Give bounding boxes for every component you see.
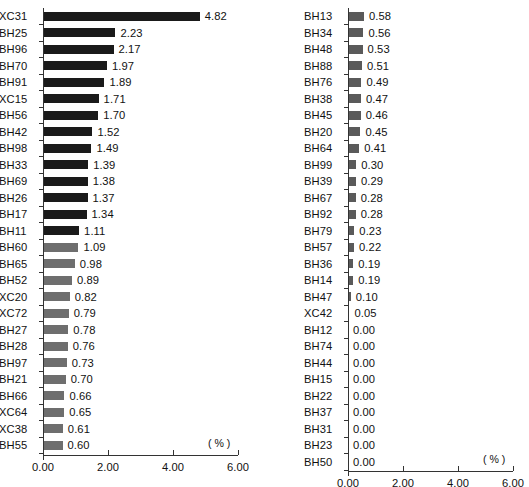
category-label: BH17 xyxy=(0,206,39,223)
bar-row: BH670.28 xyxy=(265,190,529,207)
bar xyxy=(43,441,63,450)
bar-value-label: 0.53 xyxy=(368,41,390,58)
category-label: BH88 xyxy=(304,58,344,75)
bar-row: BH440.00 xyxy=(265,355,529,372)
bar-row: XC420.05 xyxy=(265,305,529,322)
bar-value-label: 0.79 xyxy=(74,305,96,322)
category-label: BH20 xyxy=(304,124,344,141)
bar-value-label: 0.00 xyxy=(353,322,375,339)
bar-value-label: 0.10 xyxy=(356,289,378,306)
bar-row: XC380.61 xyxy=(0,421,265,438)
bar xyxy=(43,325,68,334)
bar-value-label: 0.30 xyxy=(361,157,383,174)
category-label: BH70 xyxy=(0,58,39,75)
category-label: BH28 xyxy=(0,338,39,355)
category-label: BH33 xyxy=(0,157,39,174)
category-label: BH13 xyxy=(304,8,344,25)
bar xyxy=(43,210,87,219)
bar-value-label: 0.28 xyxy=(361,206,383,223)
bar-row: BH421.52 xyxy=(0,124,265,141)
chart-panel-left: XC314.82BH252.23BH962.17BH701.97BH911.89… xyxy=(0,0,265,487)
bar-value-label: 0.05 xyxy=(354,305,376,322)
category-label: XC31 xyxy=(0,8,39,25)
bar-value-label: 0.76 xyxy=(73,338,95,355)
bar-value-label: 1.38 xyxy=(93,173,115,190)
bar-row: BH111.11 xyxy=(0,223,265,240)
bar-value-label: 0.46 xyxy=(366,107,388,124)
bar-value-label: 0.00 xyxy=(353,371,375,388)
bar-value-label: 0.28 xyxy=(361,190,383,207)
unit-label: ( % ) xyxy=(483,453,505,465)
bar-row: BH252.23 xyxy=(0,25,265,42)
category-label: BH15 xyxy=(304,371,344,388)
bar-row: BH601.09 xyxy=(0,239,265,256)
category-label: BH12 xyxy=(304,322,344,339)
bar-row: BH360.19 xyxy=(265,256,529,273)
category-label: BH96 xyxy=(0,41,39,58)
bar xyxy=(43,193,88,202)
bar-row: BH911.89 xyxy=(0,74,265,91)
bar xyxy=(43,259,75,268)
bar xyxy=(43,408,64,417)
category-label: BH22 xyxy=(304,388,344,405)
category-label: BH67 xyxy=(304,190,344,207)
bar xyxy=(43,160,88,169)
bar xyxy=(43,111,98,120)
bar-row: XC314.82 xyxy=(0,8,265,25)
bar xyxy=(43,226,79,235)
bar-row: BH140.19 xyxy=(265,272,529,289)
bar-row: BH331.39 xyxy=(0,157,265,174)
category-label: XC64 xyxy=(0,404,39,421)
bar-row: BH691.38 xyxy=(0,173,265,190)
y-axis-line xyxy=(348,8,349,476)
category-label: BH11 xyxy=(0,223,39,240)
bar xyxy=(43,309,69,318)
category-label: BH76 xyxy=(304,74,344,91)
bar-row: BH520.89 xyxy=(0,272,265,289)
bar-row: BH280.76 xyxy=(0,338,265,355)
bar xyxy=(348,45,363,54)
category-label: BH60 xyxy=(0,239,39,256)
category-label: BH99 xyxy=(304,157,344,174)
x-axis-tick-label: 2.00 xyxy=(88,461,128,473)
bar-value-label: 1.70 xyxy=(103,107,125,124)
bar-row: BH370.00 xyxy=(265,404,529,421)
figure-caption xyxy=(0,479,529,487)
bar-value-label: 2.17 xyxy=(119,41,141,58)
bar-row: BH701.97 xyxy=(0,58,265,75)
bar-value-label: 0.41 xyxy=(364,140,386,157)
bar xyxy=(43,12,200,21)
bar xyxy=(348,28,363,37)
category-label: BH55 xyxy=(0,437,39,454)
y-axis-line xyxy=(43,8,44,460)
category-label: XC38 xyxy=(0,421,39,438)
category-label: XC72 xyxy=(0,305,39,322)
category-label: BH92 xyxy=(304,206,344,223)
bar xyxy=(43,375,66,384)
category-label: BH44 xyxy=(304,355,344,372)
bar xyxy=(43,28,115,37)
bar-row: BH200.45 xyxy=(265,124,529,141)
bar xyxy=(43,94,99,103)
bar-value-label: 1.37 xyxy=(93,190,115,207)
x-axis-tick xyxy=(173,450,174,455)
bar-value-label: 0.19 xyxy=(358,272,380,289)
bar-value-label: 1.49 xyxy=(96,140,118,157)
x-axis-tick-label: 0.00 xyxy=(23,461,63,473)
bar xyxy=(43,177,88,186)
bar-row: BH790.23 xyxy=(265,223,529,240)
bar-value-label: 0.00 xyxy=(353,404,375,421)
bar-value-label: 0.51 xyxy=(367,58,389,75)
bar xyxy=(43,61,107,70)
bar-value-label: 2.23 xyxy=(120,25,142,42)
bar-row: BH470.10 xyxy=(265,289,529,306)
category-label: BH48 xyxy=(304,41,344,58)
bar-row: BH120.00 xyxy=(265,322,529,339)
bar-row: BH450.46 xyxy=(265,107,529,124)
bar-value-label: 0.00 xyxy=(353,421,375,438)
bar-row: BH760.49 xyxy=(265,74,529,91)
bar-value-label: 1.39 xyxy=(93,157,115,174)
bar-row: BH880.51 xyxy=(265,58,529,75)
bar-value-label: 0.23 xyxy=(359,223,381,240)
unit-label: ( % ) xyxy=(208,437,230,449)
